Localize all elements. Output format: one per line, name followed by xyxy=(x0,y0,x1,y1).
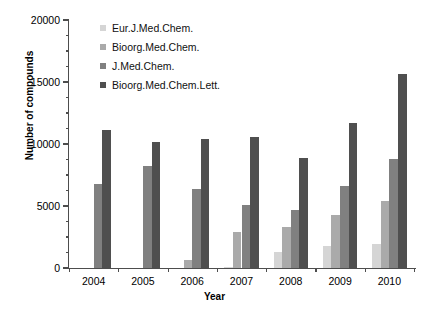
bar xyxy=(224,267,233,268)
legend-item: Bioorg.Med.Chem.Lett. xyxy=(100,79,220,91)
bar xyxy=(94,184,103,268)
y-axis-tick-minor xyxy=(66,236,70,237)
bar xyxy=(192,189,201,268)
x-axis-tick-label: 2004 xyxy=(82,275,105,287)
y-axis-tick-minor xyxy=(66,35,70,36)
bar xyxy=(201,139,210,268)
y-axis-tick-minor xyxy=(66,97,70,98)
legend-swatch-icon xyxy=(100,82,106,88)
y-axis-tick-minor xyxy=(66,66,70,67)
y-axis-title: Number of compounds xyxy=(24,21,35,191)
bar xyxy=(102,130,111,268)
x-axis-tick xyxy=(69,268,70,272)
legend-swatch-icon xyxy=(100,25,106,31)
y-axis-tick-minor xyxy=(66,252,70,253)
y-axis-tick-label: 20000 xyxy=(31,14,60,26)
bar xyxy=(282,227,291,268)
y-axis-tick-major xyxy=(63,143,69,144)
bar xyxy=(152,142,161,268)
bar xyxy=(274,252,283,268)
y-axis-tick-label: 5000 xyxy=(37,200,60,212)
x-axis-tick xyxy=(315,268,316,272)
x-axis-tick-label: 2010 xyxy=(378,275,401,287)
bar xyxy=(381,201,390,268)
bar xyxy=(340,186,349,268)
bar xyxy=(323,246,332,268)
legend: Eur.J.Med.Chem.Bioorg.Med.Chem.J.Med.Che… xyxy=(100,22,220,91)
legend-item-label: Eur.J.Med.Chem. xyxy=(112,22,193,34)
bar xyxy=(389,159,398,268)
bar-chart: Number of compounds Year 050001000015000… xyxy=(0,0,429,315)
x-axis-tick-label: 2007 xyxy=(230,275,253,287)
y-axis-tick-minor xyxy=(66,221,70,222)
bar xyxy=(250,137,259,268)
x-axis-tick xyxy=(365,268,366,272)
legend-item: J.Med.Chem. xyxy=(100,60,220,72)
bar xyxy=(242,205,251,268)
x-axis-tick xyxy=(414,268,415,272)
x-axis-tick xyxy=(118,268,119,272)
legend-swatch-icon xyxy=(100,44,106,50)
legend-swatch-icon xyxy=(100,63,106,69)
x-axis-tick-label: 2009 xyxy=(328,275,351,287)
y-axis-tick-minor xyxy=(66,190,70,191)
y-axis-tick-minor xyxy=(66,174,70,175)
x-axis-tick xyxy=(217,268,218,272)
bar xyxy=(299,158,308,268)
legend-item-label: Bioorg.Med.Chem.Lett. xyxy=(112,79,220,91)
y-axis-tick-minor xyxy=(66,159,70,160)
bar xyxy=(331,215,340,268)
y-axis-tick-major xyxy=(63,19,69,20)
y-axis-tick-label: 0 xyxy=(54,262,60,274)
bar xyxy=(233,232,242,268)
y-axis-tick-minor xyxy=(66,50,70,51)
x-axis-tick xyxy=(168,268,169,272)
legend-item-label: Bioorg.Med.Chem. xyxy=(112,41,200,53)
bar xyxy=(372,244,381,268)
x-axis-tick-label: 2008 xyxy=(279,275,302,287)
y-axis-tick-major xyxy=(63,81,69,82)
bar xyxy=(349,123,358,268)
y-axis-tick-minor xyxy=(66,112,70,113)
y-axis-tick-minor xyxy=(66,128,70,129)
x-axis-title: Year xyxy=(0,291,429,302)
bar xyxy=(184,260,193,268)
legend-item: Eur.J.Med.Chem. xyxy=(100,22,220,34)
legend-item: Bioorg.Med.Chem. xyxy=(100,41,220,53)
x-axis-tick-label: 2005 xyxy=(131,275,154,287)
legend-item-label: J.Med.Chem. xyxy=(112,60,174,72)
y-axis-tick-major xyxy=(63,205,69,206)
bar xyxy=(143,166,152,268)
bar xyxy=(291,210,300,268)
x-axis-tick-label: 2006 xyxy=(181,275,204,287)
y-axis-tick-label: 15000 xyxy=(31,76,60,88)
bar xyxy=(398,74,407,268)
x-axis-tick xyxy=(266,268,267,272)
y-axis-tick-label: 10000 xyxy=(31,138,60,150)
